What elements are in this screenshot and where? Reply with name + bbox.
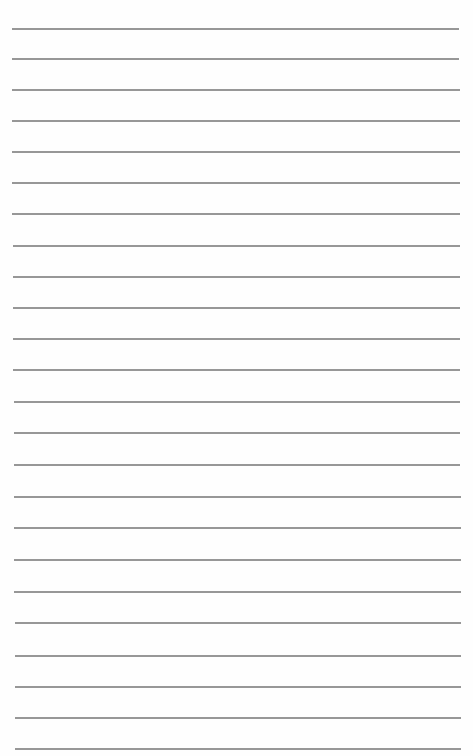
ruled-line xyxy=(15,717,461,719)
ruled-line xyxy=(12,89,460,91)
ruled-line xyxy=(14,401,460,403)
ruled-line xyxy=(14,496,461,498)
ruled-line xyxy=(13,307,460,309)
ruled-line xyxy=(13,369,460,371)
ruled-line xyxy=(15,686,461,688)
ruled-line xyxy=(15,622,461,624)
ruled-line xyxy=(13,245,460,247)
ruled-line xyxy=(13,338,460,340)
ruled-line xyxy=(14,591,461,593)
ruled-line xyxy=(12,182,460,184)
ruled-line xyxy=(15,655,461,657)
ruled-line xyxy=(14,527,461,529)
ruled-line xyxy=(12,58,459,60)
ruled-line xyxy=(12,151,460,153)
ruled-line xyxy=(12,213,460,215)
ruled-line xyxy=(14,559,461,561)
lined-paper-page xyxy=(0,0,473,756)
ruled-line xyxy=(14,432,460,434)
ruled-line xyxy=(15,748,461,750)
ruled-line xyxy=(13,276,460,278)
ruled-line xyxy=(12,28,459,30)
ruled-line xyxy=(12,120,460,122)
ruled-line xyxy=(14,464,460,466)
